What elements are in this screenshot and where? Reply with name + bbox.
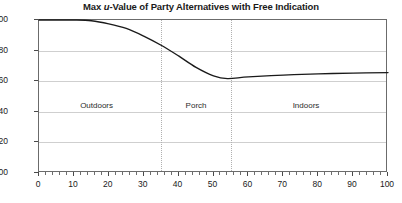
- x-tick-label-60: 60: [243, 180, 252, 189]
- x-minor-tick: [254, 172, 255, 175]
- x-minor-tick: [66, 172, 67, 175]
- x-major-tick-0: [38, 172, 39, 176]
- x-minor-tick: [310, 172, 311, 175]
- chart-root: Max u-Value of Party Alternatives with F…: [0, 0, 402, 203]
- y-tick-mark-1.00: [34, 19, 38, 20]
- x-tick-label-40: 40: [173, 180, 182, 189]
- chart-title: Max u-Value of Party Alternatives with F…: [0, 0, 402, 13]
- x-minor-tick: [366, 172, 367, 175]
- x-major-tick-90: [352, 172, 353, 176]
- x-minor-tick: [338, 172, 339, 175]
- x-minor-tick: [199, 172, 200, 175]
- series-line-max-u-value: [39, 20, 388, 173]
- x-minor-tick: [157, 172, 158, 175]
- x-major-tick-10: [73, 172, 74, 176]
- x-minor-tick: [275, 172, 276, 175]
- x-tick-label-90: 90: [347, 180, 356, 189]
- y-tick-label-0.80: 0.80: [0, 46, 8, 54]
- x-minor-tick: [115, 172, 116, 175]
- x-minor-tick: [122, 172, 123, 175]
- x-tick-label-30: 30: [138, 180, 147, 189]
- x-major-tick-20: [108, 172, 109, 176]
- x-minor-tick: [45, 172, 46, 175]
- x-tick-label-80: 80: [312, 180, 321, 189]
- x-minor-tick: [359, 172, 360, 175]
- curve-path: [39, 20, 388, 79]
- x-minor-tick: [192, 172, 193, 175]
- x-major-tick-40: [178, 172, 179, 176]
- y-tick-label-0.00: 0.00: [0, 168, 8, 176]
- x-minor-tick: [226, 172, 227, 175]
- x-minor-tick: [80, 172, 81, 175]
- x-minor-tick: [164, 172, 165, 175]
- x-minor-tick: [296, 172, 297, 175]
- x-tick-label-0: 0: [36, 180, 41, 189]
- x-minor-tick: [373, 172, 374, 175]
- x-tick-label-10: 10: [68, 180, 77, 189]
- x-minor-tick: [380, 172, 381, 175]
- x-tick-label-20: 20: [103, 180, 112, 189]
- chart-title-suffix: -Value of Party Alternatives with Free I…: [109, 1, 319, 12]
- x-minor-tick: [185, 172, 186, 175]
- x-minor-tick: [136, 172, 137, 175]
- x-major-tick-70: [282, 172, 283, 176]
- x-major-tick-50: [213, 172, 214, 176]
- x-minor-tick: [261, 172, 262, 175]
- y-tick-label-0.20: 0.20: [0, 137, 8, 145]
- chart-title-prefix: Max: [83, 1, 104, 12]
- x-minor-tick: [87, 172, 88, 175]
- y-tick-mark-0.80: [34, 50, 38, 51]
- x-major-tick-100: [387, 172, 388, 176]
- x-minor-tick: [240, 172, 241, 175]
- x-major-tick-80: [317, 172, 318, 176]
- x-tick-label-70: 70: [278, 180, 287, 189]
- x-major-tick-60: [247, 172, 248, 176]
- y-tick-label-1.00: 1.00: [0, 15, 8, 23]
- y-tick-mark-0.20: [34, 141, 38, 142]
- x-tick-label-50: 50: [208, 180, 217, 189]
- x-minor-tick: [289, 172, 290, 175]
- x-minor-tick: [150, 172, 151, 175]
- y-tick-mark-0.60: [34, 80, 38, 81]
- x-minor-tick: [233, 172, 234, 175]
- y-tick-mark-0.40: [34, 111, 38, 112]
- x-minor-tick: [129, 172, 130, 175]
- x-minor-tick: [59, 172, 60, 175]
- x-minor-tick: [345, 172, 346, 175]
- x-minor-tick: [101, 172, 102, 175]
- x-minor-tick: [331, 172, 332, 175]
- x-major-tick-30: [143, 172, 144, 176]
- x-minor-tick: [171, 172, 172, 175]
- y-tick-label-0.60: 0.60: [0, 76, 8, 84]
- y-tick-label-0.40: 0.40: [0, 107, 8, 115]
- x-minor-tick: [268, 172, 269, 175]
- x-minor-tick: [324, 172, 325, 175]
- x-minor-tick: [206, 172, 207, 175]
- x-minor-tick: [219, 172, 220, 175]
- x-minor-tick: [94, 172, 95, 175]
- plot-area: OutdoorsPorchIndoors: [38, 19, 387, 172]
- x-tick-label-100: 100: [380, 180, 394, 189]
- x-minor-tick: [52, 172, 53, 175]
- x-minor-tick: [303, 172, 304, 175]
